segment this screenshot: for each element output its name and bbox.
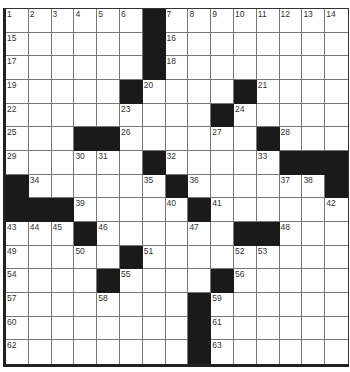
grid-cell[interactable] (97, 175, 120, 199)
grid-cell[interactable] (211, 151, 234, 175)
grid-cell[interactable] (325, 33, 348, 57)
grid-cell[interactable]: 55 (120, 269, 143, 293)
grid-cell[interactable]: 13 (302, 9, 325, 33)
grid-cell[interactable] (143, 127, 166, 151)
grid-cell[interactable] (166, 269, 189, 293)
grid-cell[interactable] (188, 151, 211, 175)
grid-cell[interactable]: 26 (120, 127, 143, 151)
grid-cell[interactable] (52, 340, 75, 364)
grid-cell[interactable] (74, 80, 97, 104)
grid-cell[interactable]: 44 (29, 222, 52, 246)
grid-cell[interactable] (166, 104, 189, 128)
grid-cell[interactable]: 50 (74, 246, 97, 270)
grid-cell[interactable]: 16 (166, 33, 189, 57)
grid-cell[interactable] (120, 293, 143, 317)
grid-cell[interactable] (234, 340, 257, 364)
grid-cell[interactable] (325, 269, 348, 293)
grid-cell[interactable] (257, 317, 280, 341)
grid-cell[interactable] (325, 222, 348, 246)
grid-cell[interactable] (257, 198, 280, 222)
grid-cell[interactable] (52, 80, 75, 104)
grid-cell[interactable]: 58 (97, 293, 120, 317)
grid-cell[interactable] (257, 293, 280, 317)
grid-cell[interactable] (74, 293, 97, 317)
grid-cell[interactable] (234, 151, 257, 175)
grid-cell[interactable]: 56 (234, 269, 257, 293)
grid-cell[interactable] (280, 56, 303, 80)
grid-cell[interactable] (29, 293, 52, 317)
grid-cell[interactable]: 5 (97, 9, 120, 33)
grid-cell[interactable] (166, 246, 189, 270)
grid-cell[interactable]: 62 (6, 340, 29, 364)
grid-cell[interactable] (143, 198, 166, 222)
grid-cell[interactable] (52, 293, 75, 317)
grid-cell[interactable]: 29 (6, 151, 29, 175)
grid-cell[interactable] (29, 33, 52, 57)
grid-cell[interactable] (211, 80, 234, 104)
grid-cell[interactable] (120, 56, 143, 80)
grid-cell[interactable] (325, 293, 348, 317)
grid-cell[interactable] (302, 340, 325, 364)
grid-cell[interactable] (257, 104, 280, 128)
grid-cell[interactable] (257, 269, 280, 293)
grid-cell[interactable]: 9 (211, 9, 234, 33)
grid-cell[interactable] (166, 293, 189, 317)
grid-cell[interactable]: 41 (211, 198, 234, 222)
grid-cell[interactable] (97, 198, 120, 222)
grid-cell[interactable] (325, 104, 348, 128)
grid-cell[interactable]: 33 (257, 151, 280, 175)
grid-cell[interactable] (234, 175, 257, 199)
grid-cell[interactable] (325, 80, 348, 104)
grid-cell[interactable] (325, 317, 348, 341)
grid-cell[interactable]: 48 (280, 222, 303, 246)
grid-cell[interactable]: 51 (143, 246, 166, 270)
grid-cell[interactable] (302, 56, 325, 80)
grid-cell[interactable] (120, 175, 143, 199)
grid-cell[interactable]: 52 (234, 246, 257, 270)
grid-cell[interactable] (52, 175, 75, 199)
grid-cell[interactable] (325, 127, 348, 151)
grid-cell[interactable] (302, 246, 325, 270)
grid-cell[interactable] (97, 33, 120, 57)
grid-cell[interactable] (302, 222, 325, 246)
grid-cell[interactable]: 3 (52, 9, 75, 33)
grid-cell[interactable]: 7 (166, 9, 189, 33)
grid-cell[interactable] (280, 246, 303, 270)
grid-cell[interactable] (257, 56, 280, 80)
grid-cell[interactable] (302, 127, 325, 151)
grid-cell[interactable]: 49 (6, 246, 29, 270)
grid-cell[interactable] (325, 340, 348, 364)
grid-cell[interactable]: 2 (29, 9, 52, 33)
grid-cell[interactable]: 36 (188, 175, 211, 199)
grid-cell[interactable]: 27 (211, 127, 234, 151)
grid-cell[interactable]: 30 (74, 151, 97, 175)
grid-cell[interactable] (143, 293, 166, 317)
grid-cell[interactable] (97, 340, 120, 364)
grid-cell[interactable]: 53 (257, 246, 280, 270)
grid-cell[interactable] (29, 340, 52, 364)
grid-cell[interactable] (74, 317, 97, 341)
grid-cell[interactable] (234, 293, 257, 317)
grid-cell[interactable] (257, 340, 280, 364)
grid-cell[interactable] (74, 56, 97, 80)
grid-cell[interactable] (74, 269, 97, 293)
grid-cell[interactable] (302, 80, 325, 104)
grid-cell[interactable] (74, 340, 97, 364)
grid-cell[interactable] (302, 293, 325, 317)
grid-cell[interactable] (143, 269, 166, 293)
grid-cell[interactable] (188, 56, 211, 80)
grid-cell[interactable]: 35 (143, 175, 166, 199)
grid-cell[interactable] (234, 127, 257, 151)
grid-cell[interactable]: 31 (97, 151, 120, 175)
grid-cell[interactable] (211, 246, 234, 270)
grid-cell[interactable] (280, 80, 303, 104)
grid-cell[interactable]: 25 (6, 127, 29, 151)
grid-cell[interactable]: 60 (6, 317, 29, 341)
grid-cell[interactable] (166, 80, 189, 104)
grid-cell[interactable] (211, 222, 234, 246)
grid-cell[interactable]: 40 (166, 198, 189, 222)
grid-cell[interactable]: 19 (6, 80, 29, 104)
grid-cell[interactable] (188, 33, 211, 57)
grid-cell[interactable] (188, 80, 211, 104)
grid-cell[interactable]: 37 (280, 175, 303, 199)
